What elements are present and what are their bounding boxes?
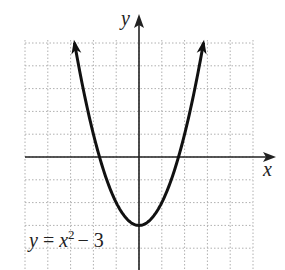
x-axis-label: x bbox=[262, 158, 272, 180]
equation-label: y = x2− 3 bbox=[27, 227, 104, 252]
parabola-graph: x y y = x2− 3 bbox=[0, 0, 285, 270]
y-axis-label: y bbox=[119, 7, 130, 30]
